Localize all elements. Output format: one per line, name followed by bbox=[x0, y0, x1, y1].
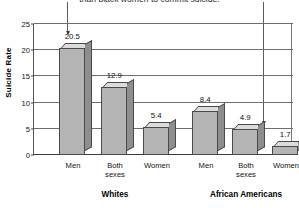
bar-side-face bbox=[169, 119, 176, 151]
bar-side-face bbox=[258, 121, 265, 151]
xtick-label-african-americans-men: Men bbox=[185, 161, 227, 170]
ytick-label-5: 5 bbox=[26, 124, 30, 133]
xtick-label-african-americans-women: Women bbox=[265, 161, 299, 170]
ytick-mark bbox=[31, 50, 34, 51]
xtick-label-african-americans-both-sexes: Both sexes bbox=[225, 161, 267, 179]
bar-whites-women: 5.4 bbox=[143, 127, 169, 155]
bar-african-americans-both-sexes: 4.9 bbox=[232, 129, 258, 155]
ytick-mark bbox=[31, 76, 34, 77]
ytick-label-0: 0 bbox=[26, 151, 30, 160]
bar-side-face bbox=[298, 138, 299, 151]
bar-whites-both-sexes: 12.9 bbox=[101, 87, 127, 155]
group-label-whites: Whites bbox=[60, 190, 170, 199]
xtick-label-line1: Women bbox=[136, 161, 178, 170]
bar-whites-men: 20.5 bbox=[59, 48, 85, 155]
xtick-label-line1: Women bbox=[265, 161, 299, 170]
xtick-label-whites-women: Women bbox=[136, 161, 178, 170]
suicide-rate-bar-chart: than black women to commit suicide. Suic… bbox=[0, 0, 299, 208]
ytick-label-15: 15 bbox=[22, 72, 30, 81]
bar-value-label: 12.9 bbox=[107, 71, 122, 80]
xtick-label-whites-men: Men bbox=[52, 161, 94, 170]
xtick-label-line2: sexes bbox=[225, 170, 267, 179]
bar-african-americans-women: 1.7 bbox=[272, 146, 298, 155]
chart-caption: than black women to commit suicide. bbox=[0, 0, 299, 4]
bar-value-label: 20.5 bbox=[65, 32, 80, 41]
bar-front-face bbox=[143, 127, 169, 155]
bar-front-face bbox=[101, 87, 127, 155]
ytick-mark bbox=[31, 155, 34, 156]
ytick-mark bbox=[31, 24, 34, 25]
bar-front-face bbox=[232, 129, 258, 155]
y-axis-title: Suicide Rate bbox=[4, 33, 13, 113]
xtick-label-line2: sexes bbox=[94, 170, 136, 179]
group-label-african-americans: African Americans bbox=[191, 190, 299, 199]
xtick-label-line1: Men bbox=[185, 161, 227, 170]
ytick-label-10: 10 bbox=[22, 98, 30, 107]
bar-value-label: 1.7 bbox=[280, 130, 291, 139]
ytick-mark bbox=[31, 128, 34, 129]
bar-front-face bbox=[272, 146, 298, 155]
xtick-label-line1: Both bbox=[225, 161, 267, 170]
bar-side-face bbox=[85, 40, 92, 151]
ytick-label-20: 20 bbox=[22, 46, 30, 55]
bar-african-americans-men: 8.4 bbox=[192, 111, 218, 155]
ytick-label-25: 25 bbox=[22, 20, 30, 29]
bar-front-face bbox=[59, 48, 85, 155]
bar-value-label: 4.9 bbox=[240, 113, 251, 122]
xtick-label-line1: Both bbox=[94, 161, 136, 170]
bar-value-label: 5.4 bbox=[151, 111, 162, 120]
gridline-25: 25 bbox=[34, 23, 293, 24]
xtick-label-whites-both-sexes: Both sexes bbox=[94, 161, 136, 179]
bar-front-face bbox=[192, 111, 218, 155]
ytick-mark bbox=[31, 102, 34, 103]
plot-area: 25 20 15 10 5 0 20.5 bbox=[33, 24, 292, 155]
bar-value-label: 8.4 bbox=[200, 95, 211, 104]
bar-side-face bbox=[218, 103, 225, 151]
bar-side-face bbox=[127, 79, 134, 151]
xtick-label-line1: Men bbox=[52, 161, 94, 170]
